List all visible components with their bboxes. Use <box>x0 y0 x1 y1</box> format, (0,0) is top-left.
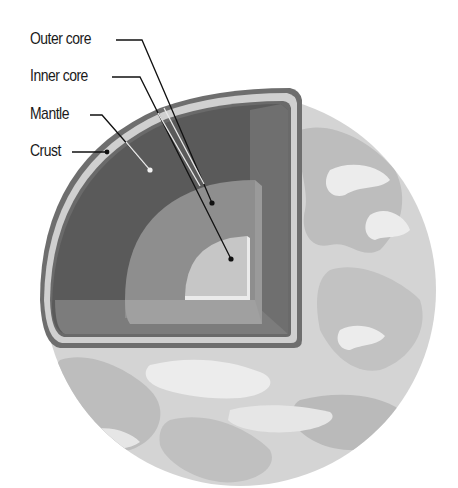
label-inner-core: Inner core <box>30 66 88 86</box>
inner-core-marker-dot <box>228 256 233 261</box>
outer-core-marker-dot <box>209 200 214 205</box>
crust-marker-dot <box>105 150 110 155</box>
mantle-marker-dot <box>147 167 152 172</box>
label-crust: Crust <box>30 141 61 161</box>
label-mantle: Mantle <box>30 104 69 124</box>
label-outer-core: Outer core <box>30 29 91 49</box>
earth-layers-diagram: Outer core Inner core Mantle Crust <box>0 0 458 488</box>
cutaway-wedge <box>40 88 302 348</box>
